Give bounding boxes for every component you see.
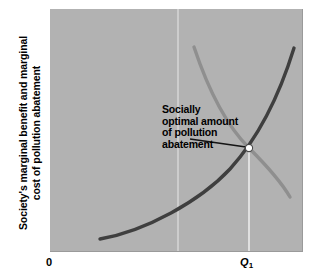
x-axis-origin-label: 0 bbox=[46, 256, 52, 268]
q1-subscript: 1 bbox=[249, 261, 253, 270]
socially-optimal-point-marker bbox=[245, 144, 252, 151]
y-axis-label-line-1: Society's marginal benefit and marginal bbox=[17, 25, 30, 241]
socially-optimal-annotation: Socially optimal amount of pollution aba… bbox=[162, 104, 238, 150]
y-axis-label: Society's marginal benefit and marginal … bbox=[17, 25, 43, 241]
q1-letter: Q bbox=[240, 256, 249, 268]
x-axis-q1-label: Q1 bbox=[240, 256, 253, 268]
y-axis-label-line-2: cost of pollution abatement bbox=[30, 25, 43, 241]
plot-area: MC MB Socially optimal amount of polluti… bbox=[50, 9, 303, 252]
annotation-line-4: abatement bbox=[162, 139, 238, 151]
chart-figure: Society's marginal benefit and marginal … bbox=[0, 0, 313, 277]
annotation-line-1: Socially bbox=[162, 104, 238, 116]
